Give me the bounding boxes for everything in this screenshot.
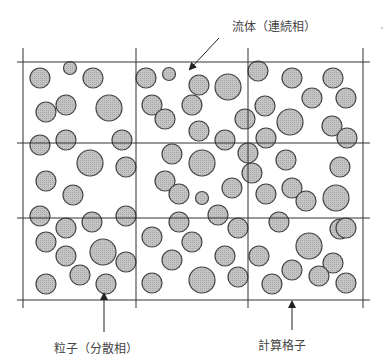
particle [215, 246, 235, 266]
particle [142, 227, 162, 247]
particle [228, 218, 248, 238]
particle [255, 96, 275, 116]
particle [112, 130, 132, 150]
particle [96, 95, 122, 121]
particle [30, 206, 50, 226]
particle [262, 274, 282, 294]
particle [116, 157, 136, 177]
particle [330, 157, 350, 177]
particle [302, 88, 322, 108]
particle [56, 130, 76, 150]
particle [163, 68, 176, 81]
particle [277, 109, 303, 135]
particle [90, 239, 116, 265]
particle [169, 212, 189, 232]
particle [63, 185, 83, 205]
particle [189, 75, 209, 95]
particle [222, 178, 242, 198]
particle [208, 205, 228, 225]
grid-label: 計算格子 [258, 338, 306, 353]
stray-dot [381, 27, 383, 29]
particle-grid-diagram: 流体（連続相） 粒子（分散相） 計算格子 [0, 0, 385, 360]
particle [83, 68, 103, 88]
particle [309, 266, 329, 286]
particle [30, 68, 50, 88]
particle [162, 144, 182, 164]
particle [215, 74, 241, 100]
particle [249, 246, 269, 266]
particle [56, 218, 76, 238]
particle [336, 88, 356, 108]
particle [256, 184, 276, 204]
particle [196, 192, 209, 205]
particle [296, 233, 322, 259]
particle [116, 206, 136, 226]
particle [70, 265, 90, 285]
particle [169, 184, 189, 204]
particle [282, 260, 302, 280]
particle [56, 95, 76, 115]
particle [96, 274, 116, 294]
particle [336, 273, 356, 293]
particle [82, 212, 102, 232]
particle [337, 128, 357, 148]
particle [36, 232, 56, 252]
particle [228, 267, 248, 287]
particle [242, 163, 262, 183]
particle [189, 121, 209, 141]
particle [235, 109, 255, 129]
particle [182, 232, 202, 252]
particle [162, 250, 182, 270]
fluid-arrow [190, 38, 219, 69]
particle [276, 150, 296, 170]
fluid-label: 流体（連続相） [232, 20, 316, 34]
particle [36, 274, 56, 294]
particles-group [30, 61, 357, 294]
particle [30, 135, 50, 155]
particle [155, 109, 175, 129]
particle [336, 218, 356, 238]
particle [64, 62, 77, 75]
particle [248, 61, 268, 81]
particle [116, 252, 136, 272]
particle-label: 粒子（分散相） [54, 341, 138, 356]
particle [77, 150, 103, 176]
particle [269, 212, 289, 232]
particle [36, 102, 56, 122]
particle [215, 130, 235, 150]
particle [136, 68, 156, 88]
particle [189, 150, 215, 176]
particle [182, 95, 202, 115]
particle [282, 68, 302, 88]
particle [189, 267, 215, 293]
particle [142, 273, 162, 293]
particle [36, 171, 56, 191]
particle [323, 185, 349, 211]
particle [296, 191, 316, 211]
particle [56, 246, 76, 266]
particle [323, 68, 343, 88]
particle [256, 128, 276, 148]
